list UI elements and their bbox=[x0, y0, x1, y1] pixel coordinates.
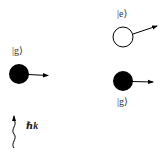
filled-atom-icon bbox=[9, 64, 29, 84]
open-atom-icon bbox=[113, 27, 133, 47]
photon-momentum-label: ℏk bbox=[26, 121, 38, 131]
right-state-label: |g⟩ bbox=[117, 97, 128, 107]
momentum-arrow-icon bbox=[132, 82, 153, 83]
filled-atom-icon bbox=[113, 71, 133, 91]
left-ground-atom bbox=[9, 64, 48, 84]
momentum-arrow-icon bbox=[133, 26, 157, 34]
excited-state-label: |e⟩ bbox=[117, 9, 127, 19]
momentum-arrow-icon bbox=[28, 75, 48, 76]
diagram-canvas bbox=[0, 0, 164, 153]
excited-atom bbox=[113, 26, 157, 47]
photon-wave bbox=[13, 116, 15, 148]
right-ground-atom bbox=[113, 71, 153, 91]
wavy-arrow-icon bbox=[13, 116, 15, 148]
left-state-label: |g⟩ bbox=[12, 46, 23, 56]
